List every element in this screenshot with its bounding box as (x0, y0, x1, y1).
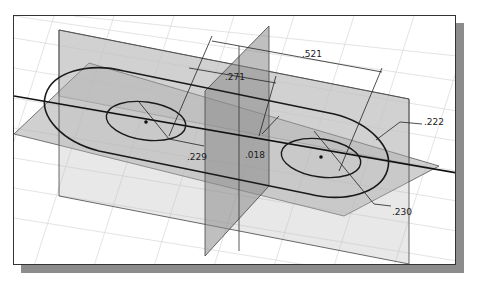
dimension-label-230[interactable]: .230 (392, 208, 412, 217)
sketch-canvas[interactable] (14, 16, 456, 265)
dimension-label-271[interactable]: .271 (225, 73, 245, 82)
dimension-label-229[interactable]: .229 (187, 153, 207, 162)
dimension-label-018[interactable]: .018 (245, 151, 265, 160)
graphics-viewport[interactable]: .521 .271 .222 .229 .018 .230 (13, 15, 456, 265)
dimension-label-222[interactable]: .222 (424, 118, 444, 127)
dimension-label-521[interactable]: .521 (302, 50, 322, 59)
